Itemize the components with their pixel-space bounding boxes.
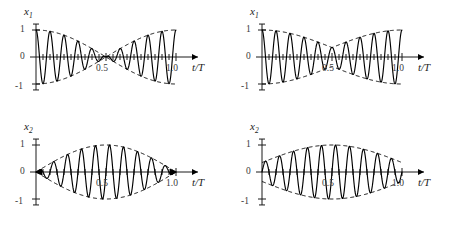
envelope-upper	[262, 145, 402, 163]
y-tick-label-pos1-top-right: 1	[246, 25, 251, 35]
x-tick-label-half-bottom-left: 0.5	[96, 179, 108, 189]
plot-canvas-bottom-right	[226, 115, 451, 230]
x-axis-arrow	[418, 54, 424, 60]
y-tick-label-pos1-top-left: 1	[20, 25, 25, 35]
x-axis-label-bottom-left: t/T	[192, 177, 204, 188]
plot-canvas-top-left	[0, 0, 225, 115]
panel-top-left: x1 1 0 -1 0.5 1.0 t/T	[0, 0, 225, 115]
y-axis-label-top-right: x1	[250, 6, 259, 20]
envelope-upper	[262, 30, 402, 48]
x-tick-label-one-bottom-right: 1.0	[392, 179, 404, 189]
x-axis-arrow	[418, 169, 424, 175]
x-tick-label-one-top-right: 1.0	[392, 64, 404, 74]
y-tick-label-neg1-bottom-left: -1	[15, 197, 23, 207]
x-axis-label-bottom-right: t/T	[418, 177, 430, 188]
x-tick-label-half-top-left: 0.5	[96, 64, 108, 74]
y-tick-label-neg1-top-left: -1	[15, 82, 23, 92]
y-axis-label-bottom-left: x2	[24, 121, 33, 135]
y-tick-label-neg1-top-right: -1	[241, 82, 249, 92]
y-tick-label-neg1-bottom-right: -1	[241, 197, 249, 207]
y-tick-label-zero-bottom-right: 0	[246, 167, 251, 177]
x-axis-label-top-right: t/T	[418, 62, 430, 73]
y-tick-label-zero-top-left: 0	[20, 52, 25, 62]
plot-canvas-bottom-left	[0, 115, 225, 230]
y-tick-label-pos1-bottom-left: 1	[20, 140, 25, 150]
x-axis-label-top-left: t/T	[192, 62, 204, 73]
carrier-wave	[262, 145, 402, 199]
x-axis-arrow	[192, 54, 198, 60]
x-tick-label-half-bottom-right: 0.5	[322, 179, 334, 189]
carrier-wave	[36, 145, 176, 199]
y-tick-label-zero-top-right: 0	[246, 52, 251, 62]
x-tick-label-half-top-right: 0.5	[322, 64, 334, 74]
beats-figure: x1 1 0 -1 0.5 1.0 t/T x1 1 0 -1 0.5 1.0 …	[0, 0, 451, 230]
x-axis-arrow	[192, 169, 198, 175]
y-axis-label-bottom-right: x2	[250, 121, 259, 135]
y-tick-label-pos1-bottom-right: 1	[246, 140, 251, 150]
y-tick-label-zero-bottom-left: 0	[20, 167, 25, 177]
panel-bottom-right: x2 1 0 -1 0.5 1.0 t/T	[226, 115, 451, 230]
x-tick-label-one-bottom-left: 1.0	[166, 179, 178, 189]
panel-bottom-left: x2 1 0 -1 0.5 1.0 t/T	[0, 115, 225, 230]
panel-top-right: x1 1 0 -1 0.5 1.0 t/T	[226, 0, 451, 115]
y-axis-label-top-left: x1	[24, 6, 33, 20]
plot-canvas-top-right	[226, 0, 451, 115]
envelope-upper	[36, 30, 176, 57]
x-tick-label-one-top-left: 1.0	[166, 64, 178, 74]
